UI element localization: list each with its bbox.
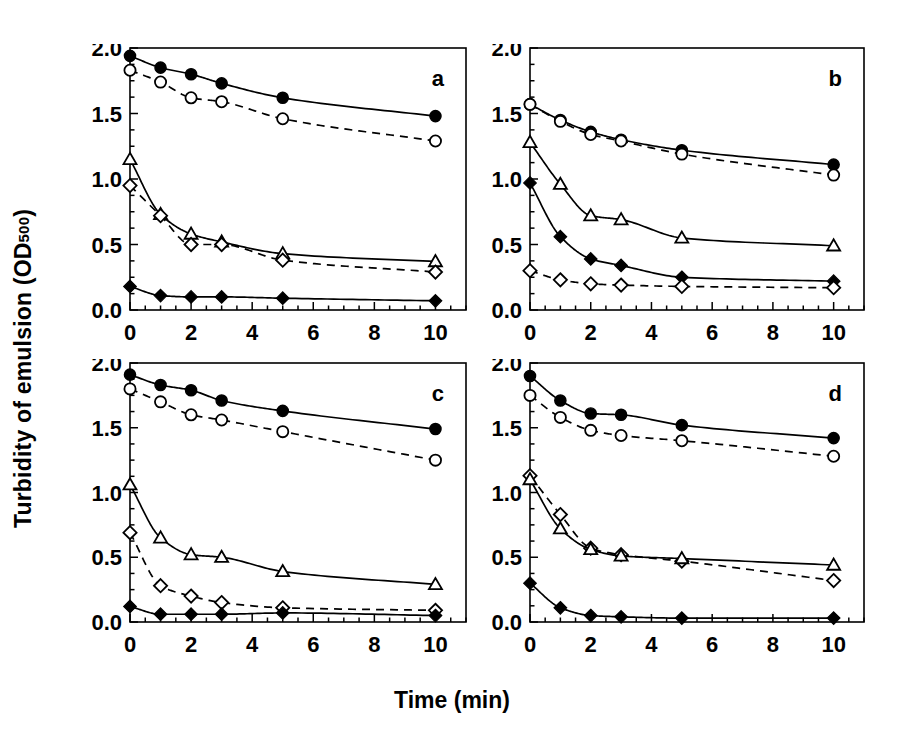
marker-filled-circle: [555, 395, 566, 406]
marker-open-diamond: [523, 264, 536, 277]
marker-open-circle: [524, 99, 535, 110]
x-tick-label: 8: [368, 320, 380, 345]
x-tick-label: 8: [767, 632, 779, 657]
marker-open-circle: [615, 430, 626, 441]
y-tick-label: 0.0: [91, 610, 122, 635]
marker-open-triangle: [584, 209, 597, 220]
series-d-open-triangle: [524, 473, 841, 570]
y-tick-label: 1.0: [91, 481, 122, 506]
marker-filled-diamond: [584, 609, 597, 622]
figure-root: Turbidity of emulsion (OD500) 02468100.0…: [0, 0, 904, 737]
marker-filled-circle: [185, 69, 196, 80]
marker-open-diamond: [584, 277, 597, 290]
marker-open-circle: [124, 65, 135, 76]
series-d-filled-circle: [524, 370, 839, 443]
marker-open-circle: [524, 390, 535, 401]
y-tick-label: 0.0: [91, 298, 122, 323]
y-axis-title-subscript: 500: [15, 217, 32, 243]
y-tick-label: 0.5: [91, 233, 122, 258]
marker-filled-diamond: [154, 608, 167, 621]
y-tick-label: 0.0: [491, 610, 522, 635]
series-c-open-triangle: [124, 478, 442, 589]
marker-open-diamond: [675, 280, 688, 293]
marker-filled-circle: [124, 50, 135, 61]
marker-open-circle: [155, 76, 166, 87]
x-tick-label: 6: [706, 320, 718, 345]
marker-filled-circle: [430, 111, 441, 122]
x-tick-label: 4: [645, 320, 658, 345]
marker-filled-circle: [585, 408, 596, 419]
marker-filled-diamond: [554, 601, 567, 614]
y-tick-label: 1.0: [491, 481, 522, 506]
marker-open-diamond: [184, 238, 197, 251]
marker-open-diamond: [154, 579, 167, 592]
marker-filled-circle: [124, 369, 135, 380]
marker-open-circle: [185, 409, 196, 420]
x-tick-label: 6: [307, 632, 319, 657]
series-a-open-triangle: [124, 153, 442, 266]
x-tick-label: 4: [246, 632, 259, 657]
panel-a-canvas: 02468100.00.51.01.52.0a: [78, 44, 470, 352]
y-tick-label: 1.5: [491, 416, 522, 441]
marker-open-circle: [828, 451, 839, 462]
x-tick-label: 8: [767, 320, 779, 345]
marker-open-circle: [430, 135, 441, 146]
series-a-open-diamond: [123, 179, 442, 279]
marker-filled-circle: [676, 420, 687, 431]
marker-open-circle: [615, 135, 626, 146]
marker-filled-circle: [155, 62, 166, 73]
x-tick-label: 2: [585, 320, 597, 345]
marker-open-circle: [155, 396, 166, 407]
y-axis-title: Turbidity of emulsion (OD500): [0, 0, 46, 737]
series-b-open-circle: [524, 99, 839, 181]
x-tick-label: 6: [307, 320, 319, 345]
marker-open-circle: [216, 96, 227, 107]
y-tick-label: 2.0: [491, 44, 522, 61]
series-a-filled-circle: [124, 50, 441, 121]
marker-open-circle: [216, 414, 227, 425]
marker-filled-circle: [615, 409, 626, 420]
y-tick-label: 0.0: [491, 298, 522, 323]
x-tick-label: 10: [821, 632, 845, 657]
x-tick-label: 4: [246, 320, 259, 345]
marker-open-triangle: [524, 136, 537, 147]
panel-letter-a: a: [432, 66, 445, 91]
x-tick-label: 0: [524, 320, 536, 345]
marker-open-diamond: [554, 273, 567, 286]
marker-open-diamond: [123, 526, 136, 539]
marker-filled-circle: [155, 379, 166, 390]
y-tick-label: 1.5: [91, 102, 122, 127]
x-tick-label: 4: [645, 632, 658, 657]
series-d-open-diamond: [523, 469, 840, 587]
plot-frame-d: [530, 363, 864, 622]
marker-filled-diamond: [154, 289, 167, 302]
marker-filled-circle: [430, 423, 441, 434]
marker-open-circle: [585, 425, 596, 436]
marker-open-circle: [676, 149, 687, 160]
y-axis-title-main: Turbidity of emulsion (OD: [10, 242, 37, 528]
marker-open-circle: [430, 455, 441, 466]
x-tick-label: 2: [185, 320, 197, 345]
panel-b-canvas: 02468100.00.51.01.52.0b: [478, 44, 868, 352]
series-c-filled-circle: [124, 369, 441, 435]
marker-filled-circle: [185, 385, 196, 396]
marker-filled-circle: [277, 405, 288, 416]
panel-c: 02468100.00.51.01.52.0c: [78, 359, 470, 664]
marker-filled-diamond: [276, 292, 289, 305]
x-tick-label: 8: [368, 632, 380, 657]
marker-filled-circle: [828, 159, 839, 170]
x-tick-label: 10: [821, 320, 845, 345]
marker-filled-circle: [216, 395, 227, 406]
marker-open-circle: [676, 435, 687, 446]
panel-a: 02468100.00.51.01.52.0a: [78, 44, 470, 352]
marker-filled-diamond: [615, 259, 628, 272]
panel-c-canvas: 02468100.00.51.01.52.0c: [78, 359, 470, 664]
series-line-open-circle: [130, 70, 435, 141]
y-tick-label: 2.0: [491, 359, 522, 376]
panel-letter-c: c: [432, 381, 444, 406]
panel-d-canvas: 02468100.00.51.01.52.0d: [478, 359, 868, 664]
panel-letter-b: b: [829, 66, 842, 91]
series-line-filled-circle: [130, 56, 435, 116]
marker-open-diamond: [827, 574, 840, 587]
marker-open-diamond: [184, 589, 197, 602]
